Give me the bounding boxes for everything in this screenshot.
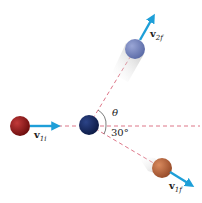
theta-angle-label: θ xyxy=(112,108,118,118)
v1f-label: v1f xyxy=(169,181,182,194)
collision-diagram: v1i v2f v1f θ 30° xyxy=(0,0,202,203)
diagram-canvas xyxy=(0,0,202,203)
ball-1-initial xyxy=(10,116,30,136)
thirty-degree-angle-label: 30° xyxy=(111,128,129,138)
theta-arc xyxy=(98,110,106,126)
motion-trails xyxy=(112,43,168,177)
ball-1-final xyxy=(152,158,172,178)
thirty-degree-arc xyxy=(104,126,106,134)
ball-2-final xyxy=(125,39,145,59)
v2f-label: v2f xyxy=(150,29,163,42)
ball-2-initial xyxy=(79,115,99,135)
angle-arcs xyxy=(98,110,106,134)
v1i-label: v1i xyxy=(34,130,47,143)
